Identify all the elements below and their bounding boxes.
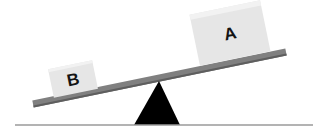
lever-balance-diagram: B A [0, 0, 323, 135]
diagram-canvas: B A [0, 0, 323, 135]
